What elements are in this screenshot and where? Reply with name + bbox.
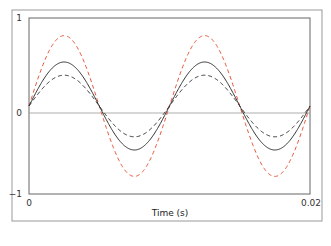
- chart: 1 0 −1 0 0.02 Time (s): [0, 0, 331, 246]
- y-tick-1: 1: [16, 13, 22, 23]
- x-axis-label: Time (s): [151, 208, 189, 218]
- x-tick-0: 0: [26, 198, 32, 208]
- y-tick-minus1: −1: [9, 189, 22, 199]
- y-tick-0: 0: [16, 108, 22, 118]
- x-tick-end: 0.02: [301, 198, 321, 208]
